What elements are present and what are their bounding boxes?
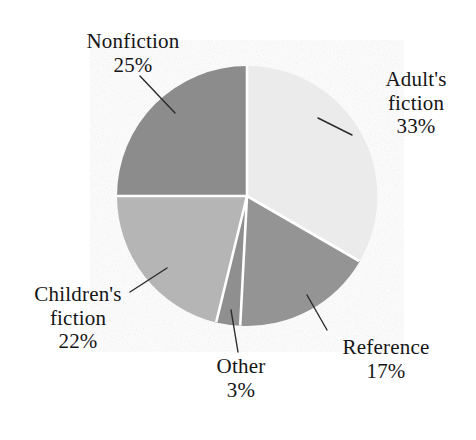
pie-slice-nonfiction [117, 66, 247, 196]
slice-label-childrens-fiction-name-line2: fiction [2, 307, 154, 331]
slice-label-reference-percent: 17% [316, 360, 456, 384]
slice-label-adults-fiction: Adult's fiction 33% [356, 68, 476, 139]
slice-label-childrens-fiction-name-line1: Children's [2, 283, 154, 307]
slice-label-other-name: Other [186, 355, 296, 379]
slice-label-other-percent: 3% [186, 379, 296, 403]
slice-label-childrens-fiction-percent: 22% [2, 330, 154, 354]
slice-label-nonfiction-percent: 25% [48, 54, 218, 78]
slice-label-reference: Reference 17% [316, 336, 456, 383]
slice-label-other: Other 3% [186, 355, 296, 402]
slice-label-adults-fiction-name-line1: Adult's [356, 68, 476, 92]
slice-label-nonfiction-name: Nonfiction [48, 30, 218, 54]
slice-label-reference-name: Reference [316, 336, 456, 360]
slice-label-adults-fiction-name-line2: fiction [356, 92, 476, 116]
pie-chart-figure: Nonfiction 25% Adult's fiction 33% Child… [0, 0, 476, 440]
slice-label-adults-fiction-percent: 33% [356, 115, 476, 139]
slice-label-nonfiction: Nonfiction 25% [48, 30, 218, 77]
slice-label-childrens-fiction: Children's fiction 22% [2, 283, 154, 354]
